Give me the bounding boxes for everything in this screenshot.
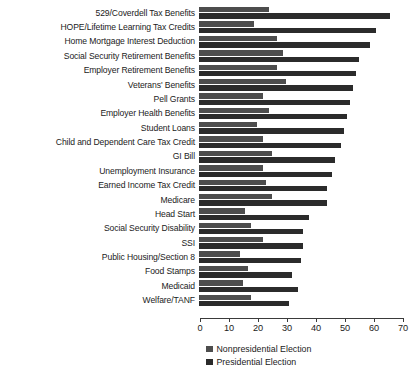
bar-chart: 529/Coverdell Tax BenefitsHOPE/Lifetime …: [0, 0, 414, 382]
category-label: Medicare: [0, 196, 199, 205]
bars-cell: [199, 250, 414, 264]
bar-presidential: [199, 186, 327, 191]
bars-cell: [199, 193, 414, 207]
bar-presidential: [199, 287, 298, 292]
bar-row: Veterans' Benefits: [0, 78, 414, 92]
bar-row: GI Bill: [0, 150, 414, 164]
bar-presidential: [199, 13, 390, 18]
legend-label: Nonpresidential Election: [217, 344, 312, 354]
category-label: Medicaid: [0, 282, 199, 291]
x-tick-label: 10: [224, 323, 234, 334]
x-tick: [258, 318, 259, 322]
plot-area: 529/Coverdell Tax BenefitsHOPE/Lifetime …: [0, 6, 414, 318]
category-label: Head Start: [0, 210, 199, 219]
x-tick: [374, 318, 375, 322]
bar-presidential: [199, 272, 292, 277]
bar-row: Earned Income Tax Credit: [0, 179, 414, 193]
bar-nonpresidential: [199, 237, 263, 242]
bar-row: Welfare/TANF: [0, 294, 414, 308]
bar-row: Head Start: [0, 207, 414, 221]
category-label: 529/Coverdell Tax Benefits: [0, 9, 199, 18]
bars-cell: [199, 150, 414, 164]
bars-cell: [199, 49, 414, 63]
bar-row: Student Loans: [0, 121, 414, 135]
bar-nonpresidential: [199, 79, 286, 84]
bar-presidential: [199, 172, 332, 177]
bars-cell: [199, 279, 414, 293]
bar-nonpresidential: [199, 266, 248, 271]
bar-row: Child and Dependent Care Tax Credit: [0, 135, 414, 149]
bar-row: Home Mortgage Interest Deduction: [0, 35, 414, 49]
bars-cell: [199, 78, 414, 92]
category-label: Home Mortgage Interest Deduction: [0, 37, 199, 46]
bar-nonpresidential: [199, 280, 243, 285]
category-label: Social Security Retirement Benefits: [0, 52, 199, 61]
x-tick-label: 60: [369, 323, 379, 334]
bar-row: Medicaid: [0, 279, 414, 293]
category-label: Employer Health Benefits: [0, 109, 199, 118]
bar-presidential: [199, 114, 347, 119]
bar-nonpresidential: [199, 21, 254, 26]
bar-nonpresidential: [199, 165, 263, 170]
x-tick: [403, 318, 404, 322]
x-tick: [345, 318, 346, 322]
bar-nonpresidential: [199, 251, 240, 256]
bars-cell: [199, 207, 414, 221]
bar-row: HOPE/Lifetime Learning Tax Credits: [0, 20, 414, 34]
x-tick-label: 50: [340, 323, 350, 334]
category-label: Student Loans: [0, 124, 199, 133]
bar-nonpresidential: [199, 122, 257, 127]
bar-presidential: [199, 28, 376, 33]
bar-nonpresidential: [199, 208, 245, 213]
bar-nonpresidential: [199, 36, 277, 41]
legend-swatch-icon: [206, 359, 213, 366]
legend-swatch-icon: [206, 346, 213, 353]
bar-nonpresidential: [199, 151, 272, 156]
bar-nonpresidential: [199, 7, 269, 12]
bar-row: Employer Retirement Benefits: [0, 64, 414, 78]
bar-nonpresidential: [199, 108, 269, 113]
bar-row: Food Stamps: [0, 265, 414, 279]
bar-row: SSI: [0, 236, 414, 250]
bars-cell: [199, 222, 414, 236]
bars-cell: [199, 179, 414, 193]
bars-cell: [199, 64, 414, 78]
bar-presidential: [199, 229, 303, 234]
bar-presidential: [199, 71, 356, 76]
bars-cell: [199, 294, 414, 308]
bars-cell: [199, 107, 414, 121]
x-tick-label: 70: [398, 323, 408, 334]
bar-nonpresidential: [199, 136, 263, 141]
bar-presidential: [199, 258, 301, 263]
bar-presidential: [199, 157, 335, 162]
category-label: Earned Income Tax Credit: [0, 181, 199, 190]
x-tick: [287, 318, 288, 322]
bar-presidential: [199, 128, 344, 133]
bar-presidential: [199, 143, 341, 148]
bar-presidential: [199, 42, 370, 47]
bar-row: Unemployment Insurance: [0, 164, 414, 178]
x-tick: [229, 318, 230, 322]
x-tick-label: 0: [197, 323, 202, 334]
bars-cell: [199, 6, 414, 20]
bar-presidential: [199, 243, 303, 248]
legend-item: Nonpresidential Election: [206, 343, 311, 355]
bars-cell: [199, 121, 414, 135]
category-label: Welfare/TANF: [0, 296, 199, 305]
category-label: Employer Retirement Benefits: [0, 66, 199, 75]
bar-presidential: [199, 100, 350, 105]
bar-presidential: [199, 215, 309, 220]
category-label: Food Stamps: [0, 267, 199, 276]
category-label: GI Bill: [0, 152, 199, 161]
category-label: Social Security Disability: [0, 224, 199, 233]
legend-label: Presidential Election: [217, 357, 297, 367]
bar-nonpresidential: [199, 65, 277, 70]
bar-nonpresidential: [199, 295, 251, 300]
category-label: Unemployment Insurance: [0, 167, 199, 176]
bar-nonpresidential: [199, 93, 263, 98]
bars-cell: [199, 135, 414, 149]
x-axis-line: [200, 318, 403, 319]
category-label: HOPE/Lifetime Learning Tax Credits: [0, 23, 199, 32]
bar-presidential: [199, 57, 359, 62]
category-label: Pell Grants: [0, 95, 199, 104]
